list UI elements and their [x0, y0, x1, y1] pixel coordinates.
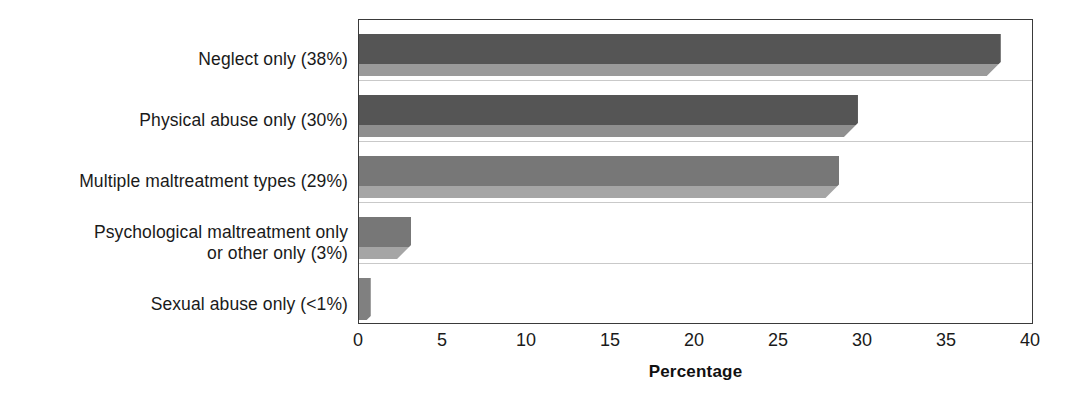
bar-physical-abuse-only	[359, 95, 858, 137]
category-label-sexual-abuse-only: Sexual abuse only (<1%)	[0, 294, 348, 315]
category-label-multiple-maltreatment-types: Multiple maltreatment types (29%)	[0, 171, 348, 192]
gridline-2	[359, 141, 1032, 142]
x-axis-tick-labels: 0 5 10 15 20 25 30 35 40	[358, 330, 1033, 356]
bar-main-fill	[359, 217, 411, 247]
x-tick-40: 40	[1020, 330, 1040, 351]
bar-main-fill	[359, 34, 1001, 64]
bar-body	[359, 95, 858, 137]
bar-body	[359, 278, 371, 320]
category-label-neglect-only: Neglect only (38%)	[0, 49, 348, 70]
bar-bevel-shadow	[359, 186, 839, 198]
gridline-3	[359, 202, 1032, 203]
x-tick-15: 15	[600, 330, 620, 351]
plot-area	[358, 19, 1033, 324]
bar-main-fill	[359, 95, 858, 125]
x-tick-0: 0	[353, 330, 363, 351]
bar-body	[359, 217, 411, 259]
bar-bevel-shadow	[359, 64, 1001, 76]
bar-neglect-only	[359, 34, 1001, 76]
x-axis-title: Percentage	[358, 362, 1033, 382]
bar-psychological-maltreatment-only	[359, 217, 411, 259]
bar-sexual-abuse-only	[359, 278, 371, 320]
bar-main-fill	[359, 278, 371, 308]
x-tick-35: 35	[936, 330, 956, 351]
x-tick-10: 10	[516, 330, 536, 351]
bar-body	[359, 34, 1001, 76]
bar-bevel-shadow	[359, 247, 411, 259]
x-tick-30: 30	[852, 330, 872, 351]
bar-body	[359, 156, 839, 198]
gridline-1	[359, 80, 1032, 81]
bar-bevel-shadow	[359, 125, 858, 137]
category-axis-labels: Neglect only (38%) Physical abuse only (…	[0, 18, 348, 323]
bar-bevel-shadow	[359, 308, 371, 320]
bar-main-fill	[359, 156, 839, 186]
category-label-physical-abuse-only: Physical abuse only (30%)	[0, 110, 348, 131]
bar-chart: Neglect only (38%) Physical abuse only (…	[0, 0, 1071, 407]
x-tick-25: 25	[768, 330, 788, 351]
x-tick-20: 20	[684, 330, 704, 351]
category-label-psychological-maltreatment-only: Psychological maltreatment only or other…	[0, 222, 348, 264]
bar-multiple-maltreatment-types	[359, 156, 839, 198]
x-tick-5: 5	[437, 330, 447, 351]
gridline-4	[359, 263, 1032, 264]
